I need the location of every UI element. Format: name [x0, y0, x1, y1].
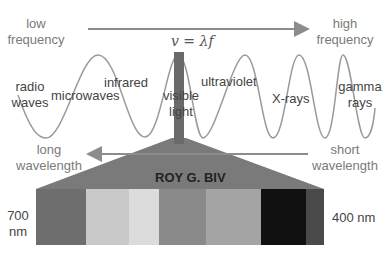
spectrum-band-orange — [86, 189, 129, 245]
unit-nm: nm — [2, 224, 34, 240]
short-label: short — [306, 142, 384, 158]
region-label: visible — [158, 88, 204, 104]
spectrum-band-violet — [306, 189, 324, 245]
region-ultraviolet: ultraviolet — [201, 74, 257, 90]
high-frequency-label: high frequency — [312, 16, 378, 48]
spectrum-band-red — [36, 189, 86, 245]
wave-equation: v = λf — [171, 33, 214, 49]
wavelength-700nm-label: 700 nm — [2, 208, 34, 240]
value-700: 700 — [2, 208, 34, 224]
region-label: gamma — [336, 79, 384, 95]
region-label: waves — [10, 95, 50, 111]
spectrum-band-indigo — [261, 189, 306, 245]
spectrum-band-green — [159, 189, 206, 245]
region-x-rays: X-rays — [272, 91, 310, 107]
low-label: low — [6, 16, 66, 32]
region-infrared: infrared — [104, 75, 148, 91]
wavelength-label: wavelength — [10, 158, 88, 174]
region-visible-light: visible light — [158, 88, 204, 120]
wavelength-label: wavelength — [306, 158, 384, 174]
spectrum-band-yellow — [129, 189, 159, 245]
low-frequency-label: low frequency — [6, 16, 66, 48]
short-wavelength-label: short wavelength — [306, 142, 384, 174]
long-label: long — [10, 142, 88, 158]
frequency-label: frequency — [6, 32, 66, 48]
region-label: rays — [336, 95, 384, 111]
region-radio-waves: radio waves — [10, 79, 50, 111]
region-label: light — [158, 104, 204, 120]
wavelength-400nm-label: 400 nm — [332, 210, 375, 226]
region-gamma-rays: gamma rays — [336, 79, 384, 111]
long-wavelength-label: long wavelength — [10, 142, 88, 174]
roygbiv-mnemonic: ROY G. BIV — [155, 170, 226, 185]
frequency-label: frequency — [312, 32, 378, 48]
region-label: radio — [10, 79, 50, 95]
high-label: high — [312, 16, 378, 32]
spectrum-band-blue — [206, 189, 261, 245]
